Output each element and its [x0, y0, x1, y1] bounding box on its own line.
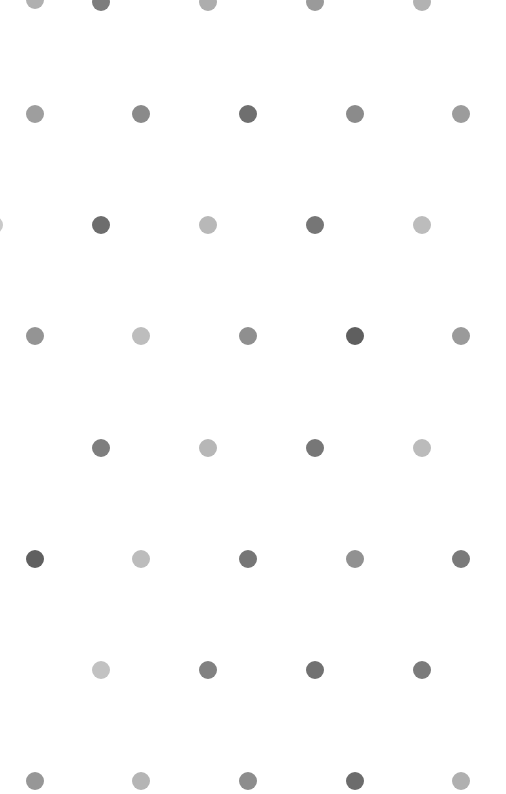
pattern-dot [346, 327, 364, 345]
pattern-dot [306, 0, 324, 11]
pattern-dot [132, 550, 150, 568]
pattern-dot [239, 105, 257, 123]
pattern-dot [26, 105, 44, 123]
pattern-dot [452, 772, 470, 790]
pattern-dot [346, 105, 364, 123]
polka-dot-pattern-canvas [0, 0, 506, 794]
pattern-dot [239, 772, 257, 790]
pattern-dot [26, 327, 44, 345]
pattern-dot [346, 550, 364, 568]
pattern-dot [346, 772, 364, 790]
pattern-dot [132, 105, 150, 123]
pattern-dot [199, 439, 217, 457]
pattern-dot [92, 216, 110, 234]
pattern-dot [413, 661, 431, 679]
pattern-dot [306, 216, 324, 234]
pattern-dot [132, 772, 150, 790]
pattern-dot [199, 216, 217, 234]
pattern-dot [92, 0, 110, 11]
pattern-dot [413, 216, 431, 234]
pattern-dot [26, 0, 44, 9]
pattern-dot [452, 550, 470, 568]
pattern-dot [199, 661, 217, 679]
pattern-dot [452, 105, 470, 123]
pattern-dot [199, 0, 217, 11]
pattern-dot [452, 327, 470, 345]
pattern-dot [92, 661, 110, 679]
pattern-dot [26, 772, 44, 790]
pattern-dot [92, 439, 110, 457]
pattern-dot [306, 661, 324, 679]
pattern-dot [413, 0, 431, 11]
pattern-dot [132, 327, 150, 345]
pattern-dot [413, 439, 431, 457]
pattern-dot [239, 550, 257, 568]
pattern-dot [26, 550, 44, 568]
pattern-dot [239, 327, 257, 345]
pattern-dot [0, 216, 3, 234]
pattern-dot [306, 439, 324, 457]
